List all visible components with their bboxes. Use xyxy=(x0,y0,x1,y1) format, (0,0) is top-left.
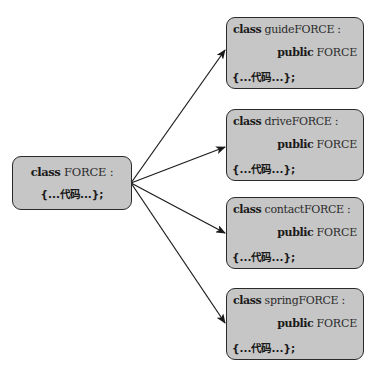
class-keyword: class xyxy=(31,165,61,179)
class-name: FORCE : xyxy=(64,165,113,179)
derived-class-box-guideforce: class guideFORCE : public FORCE {...代码..… xyxy=(226,17,364,89)
inheritance-clause: public FORCE xyxy=(277,226,357,239)
base-class-name: FORCE xyxy=(317,138,357,151)
arrow-to-contactforce xyxy=(131,183,225,233)
class-name: guideFORCE : xyxy=(265,23,341,36)
class-body: {...代码...}; xyxy=(232,161,295,176)
class-declaration: class contactFORCE : xyxy=(233,203,350,216)
class-declaration: class springFORCE : xyxy=(233,294,345,307)
base-class-box-force: class FORCE : {...代码...}; xyxy=(12,156,132,210)
derived-class-box-contactforce: class contactFORCE : public FORCE {...代码… xyxy=(226,197,364,269)
class-name: springFORCE : xyxy=(265,294,345,307)
base-class-name: FORCE xyxy=(317,317,357,330)
base-class-name: FORCE xyxy=(317,226,357,239)
public-keyword: public xyxy=(277,317,313,330)
class-keyword: class xyxy=(233,115,261,128)
base-class-declaration: class FORCE : xyxy=(13,165,131,179)
inheritance-clause: public FORCE xyxy=(277,317,357,330)
derived-class-box-springforce: class springFORCE : public FORCE {...代码.… xyxy=(226,288,364,360)
class-name: driveFORCE : xyxy=(265,115,339,128)
class-keyword: class xyxy=(233,203,261,216)
inheritance-clause: public FORCE xyxy=(277,46,357,59)
class-name: contactFORCE : xyxy=(265,203,351,216)
class-declaration: class guideFORCE : xyxy=(233,23,341,36)
arrow-to-guideforce xyxy=(131,50,225,183)
class-body: {...代码...}; xyxy=(232,340,295,355)
class-declaration: class driveFORCE : xyxy=(233,115,338,128)
class-keyword: class xyxy=(233,294,261,307)
public-keyword: public xyxy=(277,138,313,151)
class-keyword: class xyxy=(233,23,261,36)
inheritance-clause: public FORCE xyxy=(277,138,357,151)
class-body: {...代码...}; xyxy=(232,249,295,264)
derived-class-box-driveforce: class driveFORCE : public FORCE {...代码..… xyxy=(226,109,364,181)
class-body: {...代码...}; xyxy=(232,69,295,84)
base-class-name: FORCE xyxy=(317,46,357,59)
class-body: {...代码...}; xyxy=(13,186,131,201)
arrow-to-driveforce xyxy=(131,147,225,183)
arrow-to-springforce xyxy=(131,183,225,323)
public-keyword: public xyxy=(277,46,313,59)
public-keyword: public xyxy=(277,226,313,239)
